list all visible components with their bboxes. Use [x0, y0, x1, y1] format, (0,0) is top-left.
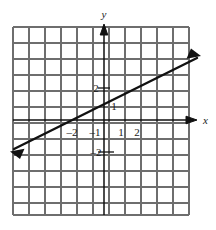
x-tick-label-neg2: –2	[66, 126, 78, 138]
x-axis-label: x	[202, 114, 208, 126]
y-tick-label-neg2: –2	[90, 146, 102, 158]
coordinate-plane-svg: y x –2 –1 1 2 2 1 –2	[0, 0, 216, 230]
x-tick-label-2: 2	[134, 126, 140, 138]
graph-figure: y x –2 –1 1 2 2 1 –2	[0, 0, 216, 230]
y-tick-label-2: 2	[93, 82, 99, 94]
y-axis-label: y	[101, 8, 107, 20]
x-tick-label-neg1: –1	[89, 126, 101, 138]
x-tick-label-1: 1	[118, 126, 124, 138]
y-tick-label-1: 1	[111, 100, 117, 112]
